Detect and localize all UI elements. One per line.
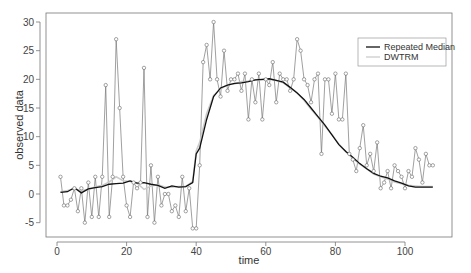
observed-point <box>170 209 173 212</box>
observed-point <box>271 60 274 63</box>
observed-point <box>128 215 131 218</box>
observed-point <box>59 175 62 178</box>
observed-point <box>400 175 403 178</box>
observed-point <box>264 78 267 81</box>
y-tick-label: -5 <box>25 217 34 228</box>
observed-point <box>348 152 351 155</box>
observed-point <box>278 72 281 75</box>
observed-point <box>83 221 86 224</box>
observed-point <box>146 215 149 218</box>
observed-point <box>396 169 399 172</box>
observed-point <box>219 95 222 98</box>
observed-point <box>327 78 330 81</box>
observed-point <box>389 187 392 190</box>
observed-point <box>292 78 295 81</box>
observed-point <box>250 78 253 81</box>
observed-point <box>229 78 232 81</box>
observed-point <box>111 175 114 178</box>
y-tick-label: 30 <box>23 17 35 28</box>
observed-point <box>191 227 194 230</box>
observed-point <box>295 38 298 41</box>
observed-point <box>184 209 187 212</box>
observed-point <box>135 187 138 190</box>
observed-point <box>382 181 385 184</box>
observed-point <box>132 181 135 184</box>
x-tick-label: 40 <box>191 246 203 257</box>
observed-point <box>379 187 382 190</box>
observed-point <box>393 164 396 167</box>
observed-point <box>428 164 431 167</box>
observed-point <box>94 175 97 178</box>
observed-point <box>323 78 326 81</box>
y-tick-label: 0 <box>28 189 34 200</box>
observed-point <box>104 83 107 86</box>
observed-point <box>285 78 288 81</box>
observed-point <box>410 175 413 178</box>
observed-point <box>369 152 372 155</box>
observed-point <box>149 164 152 167</box>
observed-point <box>375 141 378 144</box>
observed-point <box>66 204 69 207</box>
observed-point <box>403 187 406 190</box>
observed-point <box>316 72 319 75</box>
observed-point <box>90 215 93 218</box>
legend-label-dwtrm: DWTRM <box>384 52 419 62</box>
observed-point <box>174 204 177 207</box>
observed-point <box>226 89 229 92</box>
observed-point <box>313 78 316 81</box>
observed-point <box>69 198 72 201</box>
observed-point <box>344 72 347 75</box>
observed-point <box>330 112 333 115</box>
observed-point <box>421 181 424 184</box>
observed-point <box>282 78 285 81</box>
observed-point <box>320 152 323 155</box>
x-tick-label: 20 <box>121 246 133 257</box>
observed-point <box>125 204 128 207</box>
x-axis-label: time <box>239 254 260 266</box>
observed-point <box>212 20 215 23</box>
observed-point <box>386 169 389 172</box>
observed-point <box>261 118 264 121</box>
observed-point <box>153 221 156 224</box>
observed-point <box>247 118 250 121</box>
observed-point <box>417 158 420 161</box>
observed-point <box>108 215 111 218</box>
observed-point <box>414 146 417 149</box>
observed-point <box>355 169 358 172</box>
observed-point <box>306 83 309 86</box>
observed-point <box>268 83 271 86</box>
observed-point <box>243 72 246 75</box>
observed-point <box>198 164 201 167</box>
observed-point <box>142 66 145 69</box>
observed-point <box>240 89 243 92</box>
observed-point <box>275 101 278 104</box>
observed-point <box>76 209 79 212</box>
observed-point <box>188 187 191 190</box>
observed-point <box>254 101 257 104</box>
observed-point <box>222 49 225 52</box>
observed-point <box>73 187 76 190</box>
x-tick-label: 60 <box>260 246 272 257</box>
observed-point <box>195 227 198 230</box>
observed-point <box>358 146 361 149</box>
observed-point <box>139 181 142 184</box>
x-tick-label: 80 <box>330 246 342 257</box>
observed-point <box>160 204 163 207</box>
observed-point <box>309 101 312 104</box>
observed-point <box>351 158 354 161</box>
observed-point <box>177 215 180 218</box>
observed-point <box>156 175 159 178</box>
observed-point <box>341 118 344 121</box>
y-tick-label: 20 <box>23 74 35 85</box>
observed-point <box>163 192 166 195</box>
observed-point <box>362 124 365 127</box>
observed-point <box>407 169 410 172</box>
observed-point <box>114 38 117 41</box>
observed-point <box>236 72 239 75</box>
observed-point <box>208 78 211 81</box>
chart: -5051015202530 020406080100 observed dat… <box>0 0 471 273</box>
observed-point <box>101 175 104 178</box>
x-tick-label: 0 <box>54 246 60 257</box>
legend-label-repeated-median: Repeated Median <box>384 42 455 52</box>
observed-point <box>299 49 302 52</box>
